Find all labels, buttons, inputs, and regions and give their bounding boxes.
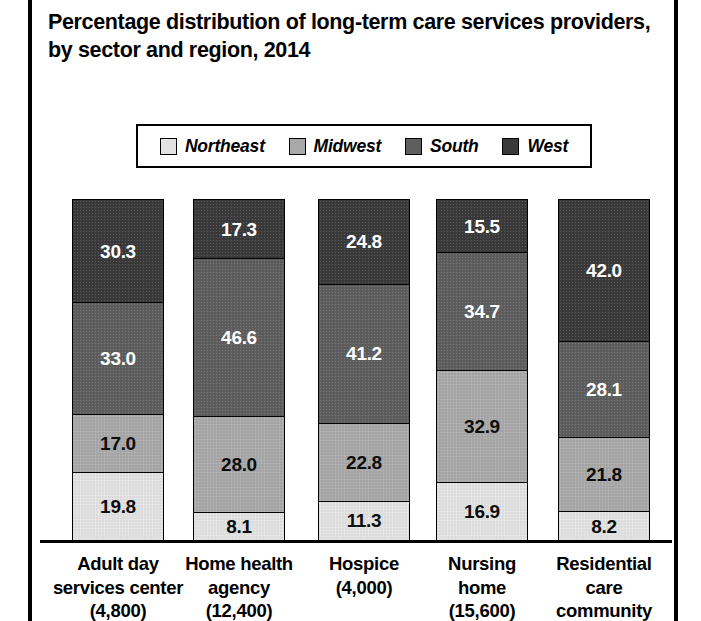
segment-home-health-agency-northeast[interactable]: 8.1 — [193, 512, 285, 541]
legend-swatch-midwest — [289, 138, 306, 155]
segment-value-label: 24.8 — [346, 232, 382, 251]
legend-label-west: West — [527, 136, 568, 157]
segment-home-health-agency-midwest[interactable]: 28.0 — [193, 416, 285, 511]
segment-adult-day-services-center-northeast[interactable]: 19.8 — [72, 472, 164, 541]
segment-value-label: 17.0 — [100, 434, 136, 453]
segment-value-label: 22.8 — [346, 453, 382, 472]
segment-hospice-midwest[interactable]: 22.8 — [318, 423, 410, 501]
segment-value-label: 19.8 — [100, 497, 136, 516]
segment-residential-care-community-west[interactable]: 42.0 — [558, 199, 650, 341]
legend-label-south: South — [430, 136, 479, 157]
segment-value-label: 33.0 — [100, 349, 136, 368]
segment-value-label: 11.3 — [347, 511, 382, 530]
segment-nursing-home-south[interactable]: 34.7 — [436, 252, 528, 370]
segment-residential-care-community-midwest[interactable]: 21.8 — [558, 437, 650, 511]
segment-hospice-west[interactable]: 24.8 — [318, 199, 410, 284]
category-label-residential-care-community: Residentialcarecommunity — [529, 552, 679, 621]
segment-hospice-northeast[interactable]: 11.3 — [318, 501, 410, 541]
segment-adult-day-services-center-south[interactable]: 33.0 — [72, 302, 164, 414]
segment-adult-day-services-center-west[interactable]: 30.3 — [72, 199, 164, 302]
category-label-line: care — [529, 576, 679, 600]
segment-value-label: 16.9 — [464, 502, 500, 521]
bar-home-health-agency[interactable]: 17.346.628.08.1 — [193, 199, 285, 541]
legend-item-west[interactable]: West — [502, 136, 568, 157]
segment-value-label: 46.6 — [221, 328, 257, 347]
category-label-line: Residential — [529, 552, 679, 576]
bar-adult-day-services-center[interactable]: 30.333.017.019.8 — [72, 199, 164, 541]
axis-baseline — [40, 540, 672, 543]
figure-container: Percentage distribution of long-term car… — [0, 0, 701, 621]
segment-home-health-agency-south[interactable]: 46.6 — [193, 258, 285, 416]
segment-nursing-home-west[interactable]: 15.5 — [436, 199, 528, 252]
segment-adult-day-services-center-midwest[interactable]: 17.0 — [72, 414, 164, 472]
segment-value-label: 34.7 — [464, 302, 500, 321]
segment-value-label: 30.3 — [100, 242, 136, 261]
segment-nursing-home-northeast[interactable]: 16.9 — [436, 482, 528, 541]
legend-item-midwest[interactable]: Midwest — [289, 136, 382, 157]
bar-residential-care-community[interactable]: 42.028.121.88.2 — [558, 199, 650, 541]
bar-hospice[interactable]: 24.841.222.811.3 — [318, 199, 410, 541]
segment-residential-care-community-south[interactable]: 28.1 — [558, 341, 650, 437]
legend-label-midwest: Midwest — [314, 136, 382, 157]
segment-value-label: 32.9 — [464, 417, 500, 436]
chart-legend: NortheastMidwestSouthWest — [136, 124, 592, 168]
segment-hospice-south[interactable]: 41.2 — [318, 284, 410, 424]
bar-nursing-home[interactable]: 15.534.732.916.9 — [436, 199, 528, 541]
segment-value-label: 8.2 — [591, 517, 617, 536]
legend-swatch-south — [405, 138, 422, 155]
legend-swatch-west — [502, 138, 519, 155]
segment-value-label: 15.5 — [464, 217, 500, 236]
frame-rule-right — [674, 0, 678, 621]
segment-value-label: 17.3 — [221, 220, 257, 239]
category-label-line: community — [529, 599, 679, 621]
category-label-line: (12,400) — [164, 599, 314, 621]
plot-area: 30.333.017.019.817.346.628.08.124.841.22… — [40, 199, 670, 541]
segment-value-label: 8.1 — [226, 517, 252, 536]
segment-value-label: 28.1 — [586, 380, 622, 399]
page-title: Percentage distribution of long-term car… — [48, 8, 658, 65]
segment-home-health-agency-west[interactable]: 17.3 — [193, 199, 285, 258]
segment-residential-care-community-northeast[interactable]: 8.2 — [558, 511, 650, 541]
legend-label-northeast: Northeast — [185, 136, 265, 157]
segment-value-label: 28.0 — [221, 455, 257, 474]
legend-swatch-northeast — [160, 138, 177, 155]
legend-item-northeast[interactable]: Northeast — [160, 136, 265, 157]
segment-value-label: 21.8 — [586, 465, 622, 484]
segment-value-label: 41.2 — [346, 344, 382, 363]
legend-item-south[interactable]: South — [405, 136, 479, 157]
frame-rule-left — [28, 0, 32, 621]
segment-nursing-home-midwest[interactable]: 32.9 — [436, 370, 528, 482]
segment-value-label: 42.0 — [586, 261, 622, 280]
